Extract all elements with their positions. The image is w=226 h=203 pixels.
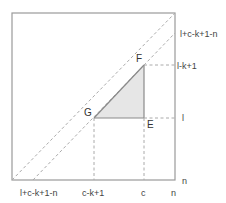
point-label-G: G bbox=[84, 107, 92, 118]
bottom-label-c: c bbox=[141, 188, 146, 198]
inner-diagonal-line bbox=[33, 33, 175, 180]
right-label-diagonal: l+c-k+1-n bbox=[180, 29, 218, 39]
bottom-label-c-k-1: c-k+1 bbox=[82, 188, 104, 198]
point-label-F: F bbox=[136, 53, 142, 64]
right-label-l-k-1: l-k+1 bbox=[177, 61, 197, 71]
right-label-l: l bbox=[182, 113, 184, 123]
diagram-canvas: F G E l+c-k+1-n l-k+1 l n l+c-k+1-n c-k+… bbox=[0, 0, 226, 203]
right-label-n: n bbox=[182, 176, 187, 186]
bottom-label-n: n bbox=[171, 188, 176, 198]
outer-diagonal-line bbox=[12, 13, 175, 180]
bottom-label-diagonal: l+c-k+1-n bbox=[20, 188, 58, 198]
point-label-E: E bbox=[147, 119, 154, 130]
